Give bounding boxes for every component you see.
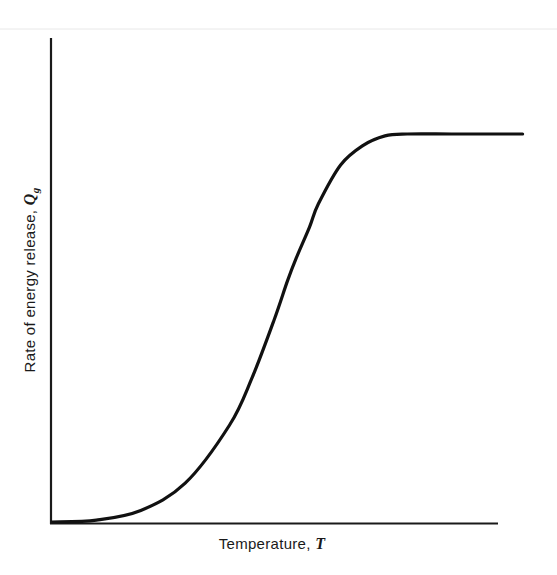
y-axis-label-variable: Q bbox=[21, 193, 38, 205]
energy-release-curve bbox=[52, 134, 523, 522]
x-axis-label-variable: T bbox=[315, 535, 325, 552]
x-axis-label-text: Temperature, bbox=[219, 535, 315, 552]
y-axis-label: Rate of energy release, Qg bbox=[21, 188, 39, 373]
chart-svg bbox=[0, 0, 557, 575]
y-axis-label-subscript: g bbox=[29, 188, 41, 194]
chart-area: Rate of energy release, Qg Temperature, … bbox=[0, 0, 557, 575]
x-axis-label: Temperature, T bbox=[219, 535, 326, 553]
y-axis-label-text: Rate of energy release, bbox=[21, 205, 38, 372]
